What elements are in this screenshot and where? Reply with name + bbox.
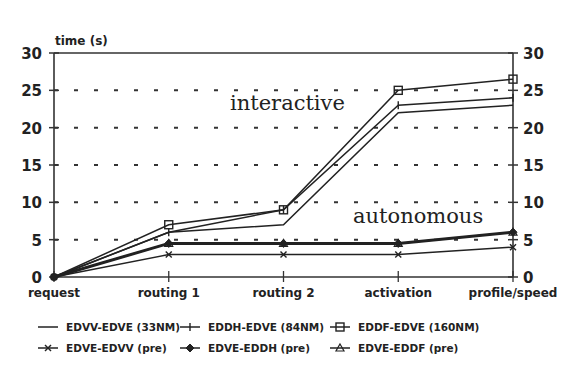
- y-tick-label-right: 0: [523, 269, 533, 287]
- legend-label: EDVE-EDVV (pre): [66, 342, 167, 354]
- x-tick-label: request: [28, 286, 80, 300]
- x-tick-label: activation: [364, 286, 432, 300]
- origin-marker: [50, 273, 58, 281]
- legend-diamond-icon: [186, 344, 194, 352]
- legend-label: EDVE-EDDF (pre): [358, 342, 458, 354]
- y-tick-label-right: 10: [523, 194, 544, 212]
- y-tick-label-left: 15: [21, 157, 42, 175]
- annotation-autonomous: autonomous: [353, 204, 483, 228]
- legend-label: EDDF-EDVE (160NM): [358, 321, 479, 333]
- x-tick-label: routing 1: [138, 286, 200, 300]
- y-tick-label-right: 15: [523, 157, 544, 175]
- annotation-interactive: interactive: [230, 91, 345, 115]
- y-tick-label-left: 20: [21, 120, 42, 138]
- y-tick-label-left: 10: [21, 194, 42, 212]
- legend-label: EDVV-EDVE (33NM): [66, 321, 180, 333]
- y-tick-label-left: 25: [21, 82, 42, 100]
- legend-label: EDVE-EDDH (pre): [208, 342, 310, 354]
- series-line: [54, 98, 513, 277]
- y-tick-label-left: 30: [21, 45, 42, 63]
- legend-label: EDDH-EDVE (84NM): [208, 321, 324, 333]
- y-tick-label-right: 30: [523, 45, 544, 63]
- y-tick-label-right: 5: [523, 232, 533, 250]
- y-tick-label-left: 0: [32, 269, 42, 287]
- y-axis-label: time (s): [55, 34, 108, 48]
- line-chart: 005510101515202025253030time (s)requestr…: [0, 0, 574, 380]
- x-tick-label: profile/speed: [469, 286, 558, 300]
- y-tick-label-right: 25: [523, 82, 544, 100]
- y-tick-label-right: 20: [523, 120, 544, 138]
- x-tick-label: routing 2: [252, 286, 314, 300]
- y-tick-label-left: 5: [32, 232, 42, 250]
